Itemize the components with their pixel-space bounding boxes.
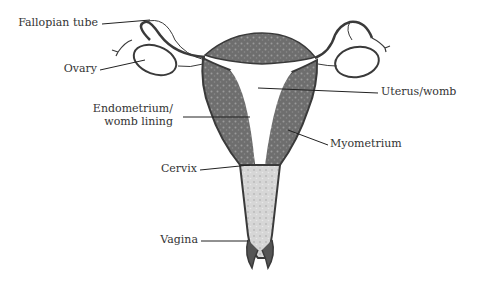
vagina [240, 165, 280, 258]
label-ovary: Ovary [0, 63, 97, 76]
label-cervix: Cervix [100, 163, 197, 176]
label-fallopian-tube: Fallopian tube [0, 17, 98, 30]
label-vagina: Vagina [100, 234, 198, 247]
uterus-fundus [205, 33, 315, 64]
label-endometrium-line2: womb lining [60, 116, 173, 129]
ovary-left [130, 39, 181, 80]
reproductive-system-illustration [0, 0, 482, 284]
label-uterus: Uterus/womb [381, 86, 456, 99]
label-endometrium-line1: Endometrium/ [60, 103, 173, 116]
label-myometrium: Myometrium [330, 138, 402, 151]
label-endometrium: Endometrium/ womb lining [60, 103, 173, 128]
ovary-right [333, 43, 382, 80]
